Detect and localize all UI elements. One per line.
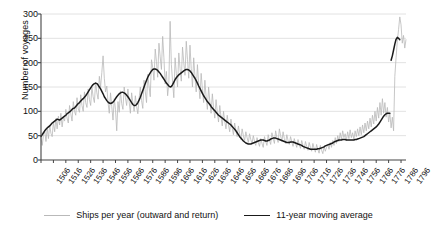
legend-swatch-icon (244, 215, 270, 216)
legend-item: 11-year moving average (244, 210, 372, 220)
legend-label: Ships per year (outward and return) (76, 210, 218, 220)
chart-legend: Ships per year (outward and return)11-ye… (0, 204, 417, 226)
legend-swatch-icon (44, 215, 70, 216)
legend-item: Ships per year (outward and return) (44, 210, 218, 220)
legend-label: 11-year moving average (276, 210, 372, 220)
